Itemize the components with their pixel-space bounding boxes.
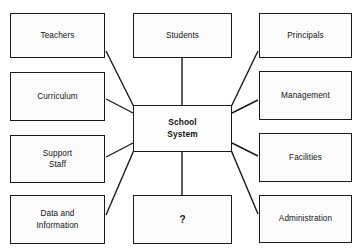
node-label-curriculum: Curriculum bbox=[37, 91, 78, 102]
connector-school-system-to-management bbox=[232, 100, 258, 113]
connector-school-system-to-facilities bbox=[232, 143, 258, 156]
connector-school-system-to-curriculum bbox=[106, 99, 133, 113]
node-label-data-and-information: Data and Information bbox=[36, 208, 78, 230]
node-label-question: ? bbox=[179, 213, 185, 227]
node-label-teachers: Teachers bbox=[40, 30, 74, 41]
node-school-system[interactable]: School System bbox=[133, 105, 232, 152]
node-label-administration: Administration bbox=[279, 213, 332, 224]
node-facilities[interactable]: Facilities bbox=[259, 133, 352, 182]
node-principals[interactable]: Principals bbox=[259, 13, 352, 58]
concept-map-diagram: TeachersStudentsPrincipalsCurriculumMana… bbox=[0, 0, 362, 252]
connector-school-system-to-principals bbox=[231, 51, 258, 107]
node-label-support-staff: Support Staff bbox=[43, 148, 72, 170]
node-question[interactable]: ? bbox=[133, 195, 232, 244]
node-management[interactable]: Management bbox=[259, 71, 352, 120]
connector-school-system-to-teachers bbox=[106, 51, 134, 107]
node-teachers[interactable]: Teachers bbox=[10, 13, 105, 58]
node-students[interactable]: Students bbox=[133, 13, 232, 58]
node-label-management: Management bbox=[281, 90, 330, 101]
node-label-principals: Principals bbox=[287, 30, 324, 41]
node-administration[interactable]: Administration bbox=[259, 195, 352, 243]
node-label-school-system: School System bbox=[167, 117, 197, 140]
node-curriculum[interactable]: Curriculum bbox=[10, 72, 105, 121]
connector-school-system-to-data-and-information bbox=[106, 150, 134, 215]
node-support-staff[interactable]: Support Staff bbox=[10, 135, 105, 183]
node-label-facilities: Facilities bbox=[289, 152, 322, 163]
connector-school-system-to-administration bbox=[231, 150, 258, 214]
node-label-students: Students bbox=[166, 30, 199, 41]
node-data-and-information[interactable]: Data and Information bbox=[10, 195, 105, 244]
connector-school-system-to-support-staff bbox=[106, 143, 133, 157]
